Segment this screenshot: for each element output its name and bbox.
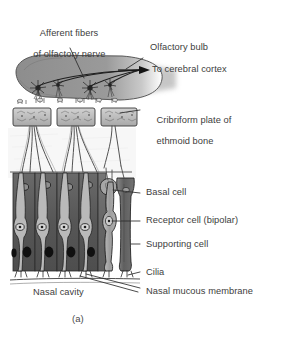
label-cribriform-line1: Cribriform plate of: [157, 115, 232, 125]
label-afferent-fibers: Afferent fibers of olfactory nerve: [8, 17, 120, 70]
label-afferent-fibers-line2: of olfactory nerve: [33, 49, 105, 59]
label-cilia: Cilia: [146, 267, 164, 278]
label-nasal-cavity: Nasal cavity: [33, 287, 84, 298]
cribriform-plate: [13, 98, 137, 126]
figure-caption: (a): [72, 313, 84, 324]
cribriform-bone-blocks: [13, 108, 137, 126]
label-afferent-fibers-line1: Afferent fibers: [40, 28, 98, 38]
leader-nasal-mucous-membrane: [86, 274, 140, 288]
label-receptor-cell: Receptor cell (bipolar): [146, 215, 238, 226]
label-to-cerebral-cortex: To cerebral cortex: [152, 64, 227, 75]
label-supporting-cell: Supporting cell: [146, 239, 208, 250]
label-olfactory-bulb: Olfactory bulb: [150, 42, 208, 53]
label-nasal-mucous-membrane: Nasal mucous membrane: [146, 286, 253, 297]
label-cribriform-plate: Cribriform plate of ethmoid bone: [146, 104, 231, 157]
cilia: [15, 271, 133, 277]
leader-cilia: [128, 272, 140, 275]
olfactory-anatomy-figure: Afferent fibers of olfactory nerve Olfac…: [0, 0, 290, 339]
label-basal-cell: Basal cell: [146, 187, 186, 198]
label-cribriform-line2: ethmoid bone: [157, 136, 214, 146]
